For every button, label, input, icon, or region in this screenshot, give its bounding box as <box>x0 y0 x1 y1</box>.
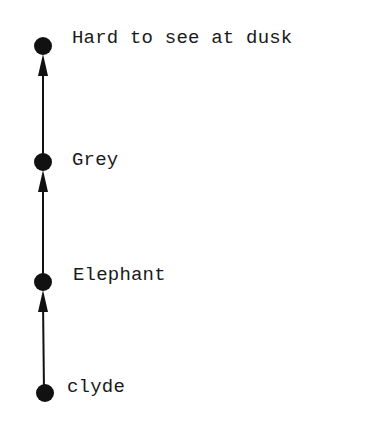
edge-elephant-to-grey <box>38 170 48 282</box>
arrowhead-icon <box>38 290 48 312</box>
arrowhead-icon <box>38 170 48 192</box>
edge-grey-to-hard-to-see-at-dusk <box>38 54 48 162</box>
node-hard-to-see-at-dusk <box>34 37 52 55</box>
node-grey <box>34 153 52 171</box>
node-label-elephant: Elephant <box>73 266 166 285</box>
chain-diagram <box>0 0 365 435</box>
node-clyde <box>36 384 54 402</box>
node-label-grey: Grey <box>72 151 118 170</box>
node-label-clyde: clyde <box>67 378 125 397</box>
node-elephant <box>34 273 52 291</box>
arrowhead-icon <box>38 54 48 76</box>
edge-clyde-to-elephant <box>38 290 48 393</box>
node-label-hard-to-see-at-dusk: Hard to see at dusk <box>72 29 292 48</box>
